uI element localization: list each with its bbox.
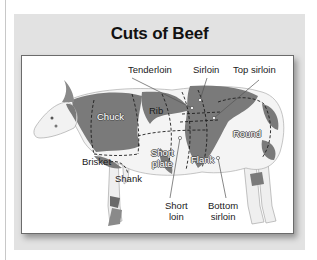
label-rib: Rib — [149, 105, 163, 116]
label-bottom-sirloin-line2: sirloin — [211, 211, 236, 222]
label-short-loin: Short loin — [165, 200, 188, 222]
label-short-plate: Short plate — [151, 147, 174, 169]
label-shank: Shank — [115, 173, 142, 184]
label-short-loin-line2: loin — [169, 211, 184, 222]
page-edge-line — [5, 0, 6, 260]
label-bottom-sirloin-line1: Bottom — [208, 200, 238, 211]
label-tenderloin: Tenderloin — [128, 64, 172, 75]
label-flank: Flank — [191, 154, 214, 165]
label-chuck: Chuck — [97, 111, 124, 122]
label-sirloin: Sirloin — [193, 64, 219, 75]
label-short-loin-line1: Short — [165, 200, 188, 211]
label-bottom-sirloin: Bottom sirloin — [208, 200, 238, 222]
label-short-plate-line1: Short — [151, 147, 174, 158]
figure-panel: Cuts of Beef — [14, 14, 305, 250]
cow-illustration — [22, 56, 293, 233]
label-brisket: Brisket — [82, 156, 111, 167]
figure-title: Cuts of Beef — [14, 24, 305, 44]
label-top-sirloin: Top sirloin — [233, 64, 276, 75]
diagram-frame: Tenderloin Sirloin Top sirloin Chuck Rib… — [21, 55, 294, 234]
label-short-plate-line2: plate — [152, 158, 173, 169]
label-round: Round — [233, 128, 261, 139]
